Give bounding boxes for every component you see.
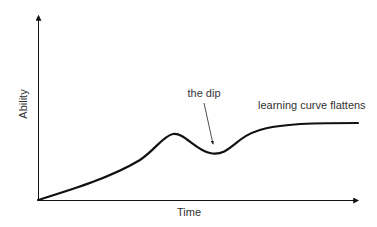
dip-annotation: the dip	[187, 87, 220, 99]
x-axis-label: Time	[177, 206, 201, 218]
plateau-annotation: learning curve flattens	[258, 99, 366, 111]
dip-pointer-arrow	[204, 103, 213, 144]
learning-curve-diagram: Ability Time the dip learning curve flat…	[0, 0, 377, 227]
learning-curve-line	[38, 123, 358, 200]
y-axis-label: Ability	[17, 89, 29, 119]
